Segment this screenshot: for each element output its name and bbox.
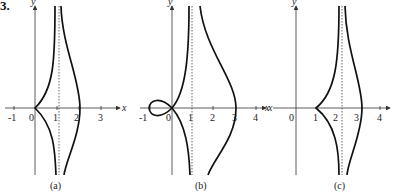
panel-b: x y -1 0 1 2 3 4 (b) — [139, 0, 273, 192]
y-axis-label: y — [167, 0, 173, 7]
conchoid-diagrams: x y -1 0 1 2 3 (a) x y -1 0 1 — [0, 0, 393, 194]
y-axis-label: y — [30, 0, 36, 7]
y-axis-label: y — [291, 0, 297, 7]
outer-branch-curve — [200, 6, 236, 175]
panel-c: x y 0 1 2 3 4 (c) — [264, 0, 390, 192]
inner-branch-loop-curve — [149, 6, 190, 175]
tick-label: 3 — [98, 112, 103, 123]
tick-label: 0 — [166, 112, 171, 123]
outer-branch-curve — [345, 6, 362, 175]
x-axis-label: x — [121, 102, 127, 113]
tick-label: 1 — [313, 112, 318, 123]
tick-label: 4 — [253, 112, 258, 123]
tick-label: -1 — [8, 112, 16, 123]
tick-label: 2 — [333, 112, 338, 123]
tick-label: -1 — [139, 112, 147, 123]
outer-branch-curve — [61, 6, 80, 175]
x-axis-label: x — [264, 102, 270, 113]
tick-label: 1 — [53, 112, 58, 123]
panel-caption: (b) — [195, 180, 207, 192]
inner-branch-curve — [316, 6, 339, 175]
inner-branch-curve — [35, 6, 56, 175]
panel-a: x y -1 0 1 2 3 (a) — [5, 0, 127, 192]
tick-label: 0 — [289, 112, 294, 123]
panel-caption: (c) — [334, 180, 345, 192]
tick-label: 0 — [29, 112, 34, 123]
tick-label: 3 — [354, 112, 359, 123]
panel-caption: (a) — [50, 180, 61, 192]
tick-label: 2 — [210, 112, 215, 123]
tick-label: 4 — [377, 112, 382, 123]
